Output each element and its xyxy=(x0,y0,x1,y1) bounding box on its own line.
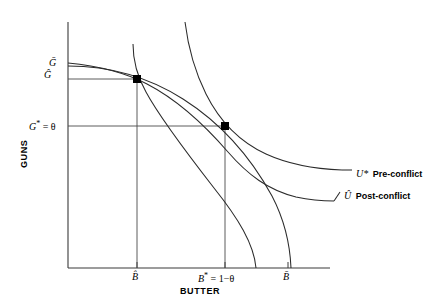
legend-leader-post xyxy=(334,192,340,201)
y-axis-title: GUNS xyxy=(20,140,29,168)
g-star-equation: = θ xyxy=(40,121,55,132)
x-tick-label-b-hat: B̂ xyxy=(132,272,138,282)
marker-tangency-pre-conflict xyxy=(221,122,229,130)
marker-tangency-post-conflict xyxy=(133,75,141,83)
y-tick-label-g-bar: Ḡ xyxy=(49,58,56,68)
legend-post-label: Post-conflict xyxy=(356,191,411,201)
legend-item-post-conflict: Û Post-conflict xyxy=(344,186,410,202)
x-tick-label-b-star: B* = 1−θ xyxy=(198,272,234,284)
legend-pre-superscript: * xyxy=(363,168,368,179)
x-tick-label-b-bar: B̄ xyxy=(283,272,289,282)
pre-conflict-indifference-curve xyxy=(185,22,342,170)
chart-figure: Ḡ Ĝ G* = θ B̂ B* = 1−θ B̄ GUNS BUTTER … xyxy=(0,0,444,304)
legend-pre-label: Pre-conflict xyxy=(373,169,423,179)
legend-item-pre-conflict: U* Pre-conflict xyxy=(356,164,422,180)
chart-canvas xyxy=(0,0,444,304)
legend-post-symbol: Û xyxy=(344,190,351,201)
inner-ppf-curve xyxy=(133,44,256,268)
outer-ppf-curve xyxy=(68,66,291,268)
y-tick-label-g-hat: Ĝ xyxy=(44,70,51,80)
x-axis-title: BUTTER xyxy=(180,287,220,296)
y-tick-label-g-star: G* = θ xyxy=(29,120,56,132)
b-star-equation: = 1−θ xyxy=(208,273,234,284)
